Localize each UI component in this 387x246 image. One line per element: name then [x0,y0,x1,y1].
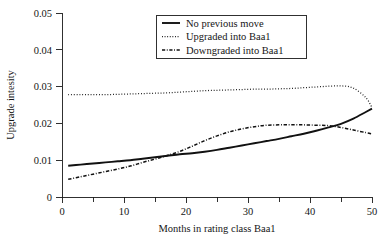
y-axis-title: Upgrade intesity [5,69,16,139]
y-tick-label-0.01: 0.01 [34,155,52,166]
legend-label-upgraded-into-baa1: Upgraded into Baa1 [186,31,271,42]
series-line-downgraded-into-baa1 [68,125,372,179]
x-axis-title: Months in rating class Baa1 [158,223,275,234]
y-tick-label-0.04: 0.04 [34,45,53,56]
x-tick-label-10: 10 [119,206,130,217]
y-tick-label-0.02: 0.02 [34,118,52,129]
chart-legend: No previous move Upgraded into Baa1 Down… [156,15,306,58]
x-tick-label-30: 30 [243,206,254,217]
legend-label-no-previous-move: No previous move [186,18,264,29]
series-line-no-previous-move [68,109,372,166]
y-tick-label-0.05: 0.05 [34,8,52,19]
x-tick-label-50: 50 [367,206,378,217]
chart-figure: 0.05 0.04 0.03 0.02 0.01 0 0 10 20 [0,0,387,246]
x-tick-label-40: 40 [305,206,316,217]
y-axis-ticks: 0.05 0.04 0.03 0.02 0.01 0 [34,8,62,203]
series-group [68,86,372,180]
legend-label-downgraded-into-baa1: Downgraded into Baa1 [186,45,283,56]
x-axis-ticks: 0 10 20 30 40 50 [59,197,377,217]
x-tick-label-0: 0 [59,206,64,217]
x-tick-label-20: 20 [181,206,192,217]
chart-canvas: 0.05 0.04 0.03 0.02 0.01 0 0 10 20 [0,0,387,246]
series-line-upgraded-into-baa1 [68,86,372,108]
y-tick-label-0: 0 [47,192,52,203]
y-tick-label-0.03: 0.03 [34,81,52,92]
